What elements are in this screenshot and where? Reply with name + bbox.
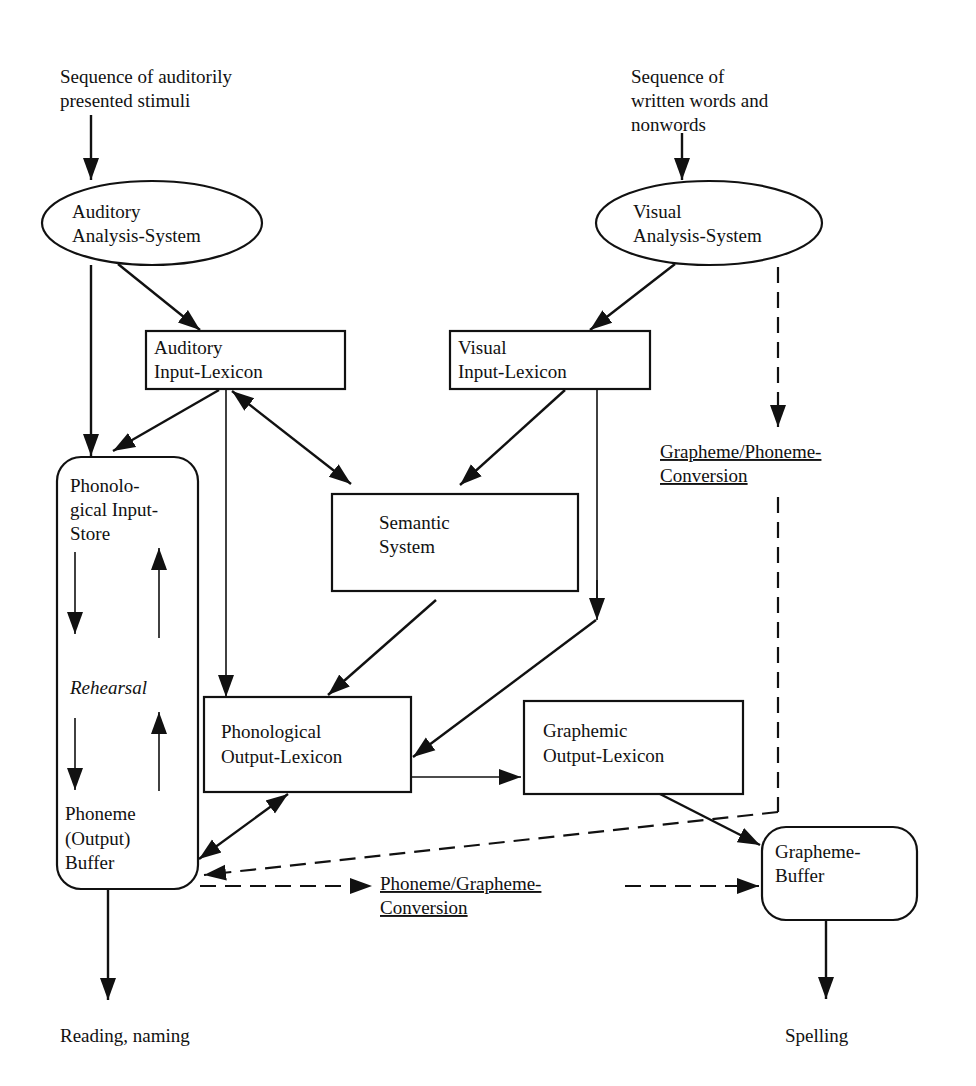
edge-phonological-output-phoneme-buffer-bidirectional	[199, 794, 288, 859]
node-label: Auditory	[154, 337, 223, 358]
auditory-input-label: Sequence of auditorily presented stimuli	[60, 66, 233, 111]
conversion-label-line: Grapheme/Phoneme-	[660, 441, 821, 462]
node-semantic-system[interactable]: Semantic System	[332, 494, 578, 591]
conversion-label-line: Conversion	[660, 465, 748, 486]
node-label: Output-Lexicon	[543, 745, 665, 766]
auditory-input-line-1: Sequence of auditorily	[60, 66, 233, 87]
cognitive-model-diagram: Sequence of auditorily presented stimuli…	[0, 0, 976, 1086]
node-visual-analysis-system[interactable]: Visual Analysis-System	[596, 181, 822, 265]
node-auditory-analysis-system[interactable]: Auditory Analysis-System	[42, 181, 262, 265]
spelling-output-label: Spelling	[785, 1025, 849, 1046]
edge-graphemic-output-to-grapheme-buffer	[660, 794, 760, 845]
node-label: Input-Lexicon	[458, 361, 567, 382]
node-label: Output-Lexicon	[221, 746, 343, 767]
phoneme-buffer-label: Buffer	[65, 852, 115, 873]
edge-auditory-input-lexicon-semantic-bidirectional	[232, 391, 351, 484]
node-label: Buffer	[775, 865, 825, 886]
node-label: Graphemic	[543, 720, 627, 741]
reading-naming-output-label: Reading, naming	[60, 1025, 190, 1046]
node-label: Analysis-System	[72, 225, 201, 246]
node-grapheme-buffer[interactable]: Grapheme- Buffer	[762, 827, 917, 920]
phoneme-grapheme-conversion-label: Phoneme/Grapheme- Conversion	[380, 873, 541, 918]
conversion-label-line: Conversion	[380, 897, 468, 918]
visual-input-line-3: nonwords	[631, 114, 706, 135]
node-label: Auditory	[72, 201, 141, 222]
conversion-label-line: Phoneme/Grapheme-	[380, 873, 541, 894]
node-label: Semantic	[379, 512, 450, 533]
node-auditory-input-lexicon[interactable]: Auditory Input-Lexicon	[146, 331, 345, 389]
visual-input-label: Sequence of written words and nonwords	[631, 66, 769, 135]
edge-auditory-analysis-to-input-lexicon	[118, 264, 200, 330]
node-label: Visual	[633, 201, 681, 222]
node-label: System	[379, 536, 435, 557]
phoneme-buffer-label: (Output)	[65, 828, 130, 850]
node-phonological-store[interactable]: Phonolo- gical Input- Store Rehearsal Ph…	[57, 457, 198, 889]
node-phonological-output-lexicon[interactable]: Phonological Output-Lexicon	[204, 697, 411, 792]
phonological-input-store-label: Store	[70, 523, 110, 544]
phonological-input-store-label: Phonolo-	[70, 475, 140, 496]
node-label: Visual	[458, 337, 506, 358]
edge-visual-input-lexicon-to-semantic	[460, 390, 565, 485]
rehearsal-label: Rehearsal	[69, 677, 147, 698]
edge-gp-conversion-to-phoneme-buffer	[204, 812, 778, 875]
node-label: Input-Lexicon	[154, 361, 263, 382]
node-label: Analysis-System	[633, 225, 762, 246]
grapheme-phoneme-conversion-label: Grapheme/Phoneme- Conversion	[660, 441, 821, 486]
node-visual-input-lexicon[interactable]: Visual Input-Lexicon	[450, 331, 650, 389]
edge-visual-analysis-to-input-lexicon	[590, 264, 675, 330]
node-label: Grapheme-	[775, 841, 860, 862]
edge-auditory-input-lexicon-to-phonological-store	[113, 390, 219, 451]
visual-input-line-2: written words and	[631, 90, 769, 111]
edge-semantic-to-phonological-output	[328, 600, 436, 695]
node-graphemic-output-lexicon[interactable]: Graphemic Output-Lexicon	[524, 701, 743, 794]
node-label: Phonological	[221, 721, 321, 742]
phoneme-buffer-label: Phoneme	[65, 803, 136, 824]
auditory-input-line-2: presented stimuli	[60, 90, 190, 111]
visual-input-line-1: Sequence of	[631, 66, 725, 87]
phonological-input-store-label: gical Input-	[70, 499, 158, 520]
